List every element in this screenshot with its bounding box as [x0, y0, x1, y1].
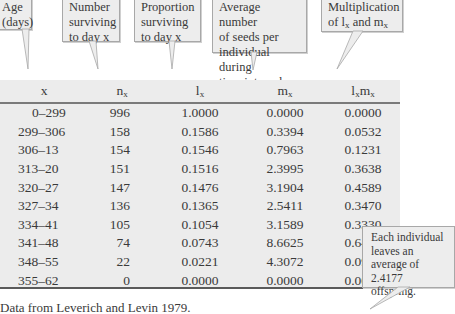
age-cell: 327–34: [0, 197, 88, 216]
life-table-grid: x nx lx mx lxmx 0–2999961.00000.00000.00…: [0, 80, 400, 290]
cell-value: 348–55: [18, 254, 59, 270]
callout-text: average of: [371, 258, 448, 272]
header-nx: nx: [88, 80, 156, 103]
cell-value: 327–34: [18, 198, 59, 214]
callout-pointer-summary: [368, 287, 412, 311]
header-label: x: [41, 83, 48, 98]
age-cell: 334–41: [0, 216, 88, 235]
callout-text-part: and m: [350, 15, 384, 29]
lxmx-cell: 0.4589: [326, 178, 400, 197]
cell-value: 0–299: [18, 105, 66, 121]
callout-pointer-age: [20, 29, 32, 71]
lx-cell: 0.0743: [156, 234, 244, 253]
mx-cell: 3.1904: [244, 178, 326, 197]
table-row: 0–2999961.00000.00000.0000: [0, 103, 400, 123]
callout-pointer-proportion: [168, 41, 178, 71]
cell-value: 320–27: [18, 180, 59, 196]
header-x: x: [0, 80, 88, 103]
lx-cell: 0.1516: [156, 160, 244, 179]
callout-pointer-number: [88, 41, 102, 71]
age-cell: 299–306: [0, 123, 88, 142]
nx-cell: 158: [88, 123, 156, 142]
callout-text: Proportion: [141, 0, 194, 15]
subscript: x: [370, 89, 375, 99]
nx-cell: 151: [88, 160, 156, 179]
lx-cell: 0.1365: [156, 197, 244, 216]
lxmx-cell: 0.3470: [326, 197, 400, 216]
age-cell: 306–13: [0, 141, 88, 160]
lx-cell: 0.1546: [156, 141, 244, 160]
callout-age: Age (days): [0, 0, 32, 30]
mx-cell: 8.6625: [244, 234, 326, 253]
subscript: x: [200, 89, 205, 99]
mx-cell: 4.3072: [244, 253, 326, 272]
lx-cell: 0.0221: [156, 253, 244, 272]
table-row: 320–271470.14763.19040.4589: [0, 178, 400, 197]
callout-pointer-multiplication: [335, 31, 365, 71]
callout-text: Age: [2, 0, 25, 15]
callout-text: surviving: [141, 15, 194, 30]
subscript: x: [384, 20, 389, 30]
age-cell: 341–48: [0, 234, 88, 253]
life-table: x nx lx mx lxmx 0–2999961.00000.00000.00…: [0, 80, 400, 288]
callout-text: Multiplication: [328, 0, 396, 15]
header-lxmx: lxmx: [326, 80, 400, 103]
callout-number: Number surviving to day x: [62, 0, 120, 42]
nx-cell: 105: [88, 216, 156, 235]
subscript: x: [288, 89, 293, 99]
cell-value: 341–48: [18, 235, 59, 251]
header-label: m: [277, 83, 288, 98]
header-mx: mx: [244, 80, 326, 103]
callout-summary: Each individual leaves an average of 2.4…: [362, 226, 455, 288]
mx-cell: 2.3995: [244, 160, 326, 179]
mx-cell: 0.3394: [244, 123, 326, 142]
callout-text: Number: [69, 0, 113, 15]
age-cell: 320–27: [0, 178, 88, 197]
lx-cell: 0.1476: [156, 178, 244, 197]
lx-cell: 0.1586: [156, 123, 244, 142]
cell-value: 313–20: [18, 161, 59, 177]
cell-value: 299–306: [18, 124, 65, 140]
age-cell: 348–55: [0, 253, 88, 272]
lxmx-cell: 0.0000: [326, 103, 400, 123]
mx-cell: 3.1589: [244, 216, 326, 235]
callout-text: (days): [2, 15, 25, 30]
mx-cell: 0.0000: [244, 103, 326, 123]
callout-average: Average number of seeds per individual d…: [212, 0, 307, 53]
header-label: m: [360, 83, 371, 98]
callout-text: Average number: [219, 0, 300, 30]
subscript: x: [123, 89, 128, 99]
cell-value: 334–41: [18, 217, 59, 233]
callout-text: Each individual: [371, 231, 448, 245]
callout-text: surviving: [69, 15, 113, 30]
table-bottom-rule: [0, 287, 400, 289]
lx-cell: 0.1054: [156, 216, 244, 235]
table-row: 299–3061580.15860.33940.0532: [0, 123, 400, 142]
callout-text: of seeds per: [219, 30, 300, 45]
callout-pointer-average: [250, 52, 260, 72]
callout-proportion: Proportion surviving to day x: [134, 0, 201, 42]
cell-value: 306–13: [18, 142, 59, 158]
callout-text: leaves an: [371, 245, 448, 259]
nx-cell: 147: [88, 178, 156, 197]
nx-cell: 74: [88, 234, 156, 253]
table-row: 334–411050.10543.15890.3330: [0, 216, 400, 235]
lxmx-cell: 0.3638: [326, 160, 400, 179]
table-row: 348–55220.02214.30720.0951: [0, 253, 400, 272]
lx-cell: 1.0000: [156, 103, 244, 123]
mx-cell: 2.5411: [244, 197, 326, 216]
age-cell: 0–299: [0, 103, 88, 123]
table-row: 341–48740.07438.66250.6436: [0, 234, 400, 253]
nx-cell: 996: [88, 103, 156, 123]
callout-multiplication: Multiplication of lx and mx: [321, 0, 403, 32]
table-row: 306–131540.15460.79630.1231: [0, 141, 400, 160]
mx-cell: 0.7963: [244, 141, 326, 160]
table-header-row: x nx lx mx lxmx: [0, 80, 400, 103]
table-row: 313–201510.15162.39950.3638: [0, 160, 400, 179]
table-row: 327–341360.13652.54110.3470: [0, 197, 400, 216]
nx-cell: 136: [88, 197, 156, 216]
lxmx-cell: 0.0532: [326, 123, 400, 142]
age-cell: 313–20: [0, 160, 88, 179]
source-caption: Data from Leverich and Levin 1979.: [0, 300, 191, 314]
header-lx: lx: [156, 80, 244, 103]
